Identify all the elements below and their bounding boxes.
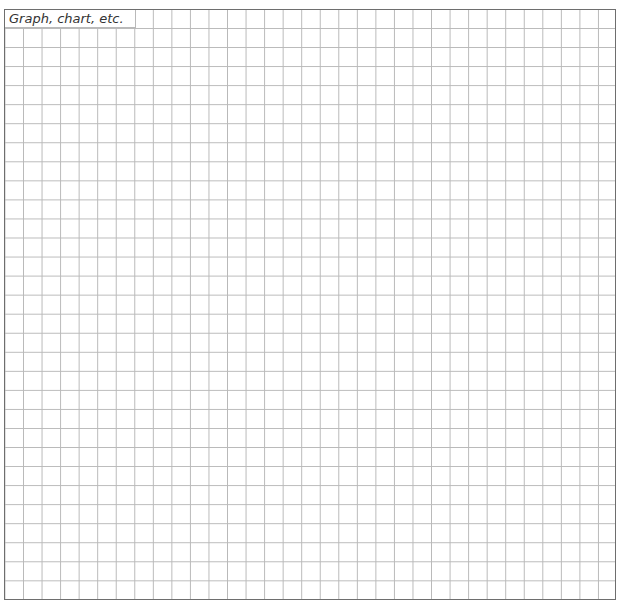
grid-label: Graph, chart, etc.: [5, 10, 136, 28]
graph-paper-grid: Graph, chart, etc.: [4, 9, 616, 600]
